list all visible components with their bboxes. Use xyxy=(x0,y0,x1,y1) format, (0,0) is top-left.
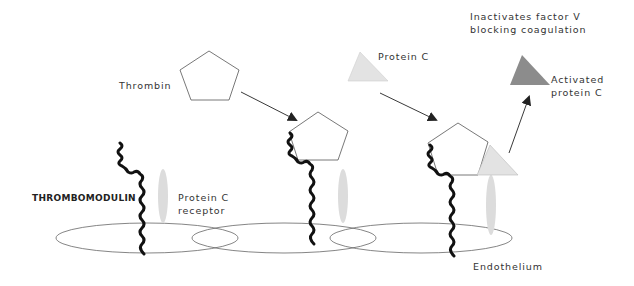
arrow-thrombin-binding xyxy=(241,92,296,120)
activated-protein-c-triangle xyxy=(510,55,550,85)
bound-thrombin-pentagon-3 xyxy=(428,123,488,175)
protein-c-receptor-1 xyxy=(158,169,168,223)
thrombomodulin-label: THROMBOMODULIN xyxy=(32,192,136,205)
thrombin-label: Thrombin xyxy=(119,79,171,92)
inactivates-label-line2: blocking coagulation xyxy=(470,23,586,36)
thrombin-pentagon xyxy=(180,51,239,100)
protein-c-receptor-3 xyxy=(486,175,496,235)
diagram-canvas xyxy=(0,0,634,286)
arrow-activation xyxy=(509,97,529,153)
receptor-label-line2: receptor xyxy=(178,204,225,217)
endothelium-cell-2 xyxy=(192,223,376,253)
activated-protein-c-label-line1: Activated xyxy=(551,73,604,86)
bound-thrombin-pentagon-2 xyxy=(289,112,348,160)
activated-protein-c-label-line2: protein C xyxy=(551,86,603,99)
protein-c-receptor-2 xyxy=(338,169,348,223)
protein-c-label: Protein C xyxy=(378,50,429,63)
endothelium-cell-3 xyxy=(330,223,512,253)
endothelium-cell-1 xyxy=(56,223,238,253)
endothelium-label: Endothelium xyxy=(473,260,543,273)
inactivates-label-line1: Inactivates factor V xyxy=(470,10,581,23)
receptor-label-line1: Protein C xyxy=(178,191,229,204)
arrow-protein-c-binding xyxy=(380,93,436,120)
